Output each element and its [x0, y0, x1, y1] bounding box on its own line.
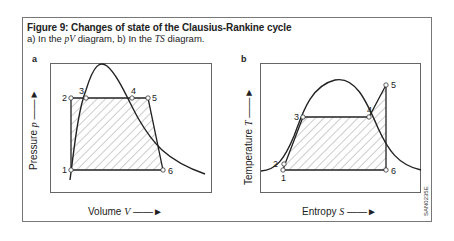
pv-point-5: 5: [152, 93, 157, 103]
pv-point-4: 4: [131, 86, 136, 96]
ts-point-5: 5: [391, 80, 396, 90]
pv-point-2: 2: [62, 93, 67, 103]
ts-point-2: 2: [273, 159, 278, 169]
ts-diagram: 1 2 3 4 5 6: [261, 80, 421, 183]
pv-point-6: 6: [168, 166, 173, 176]
ts-point-1: 1: [281, 173, 286, 183]
ts-point-4: 4: [367, 105, 372, 115]
pv-point-3: 3: [79, 86, 84, 96]
pv-diagram: 1 2 3 4 5 6: [62, 64, 205, 180]
ts-point-6: 6: [391, 166, 396, 176]
pv-point-1: 1: [62, 165, 67, 175]
ts-point-3: 3: [294, 112, 299, 122]
diagrams-svg: 1 2 3 4 5 6 1 2 3 4 5 6: [0, 0, 454, 241]
